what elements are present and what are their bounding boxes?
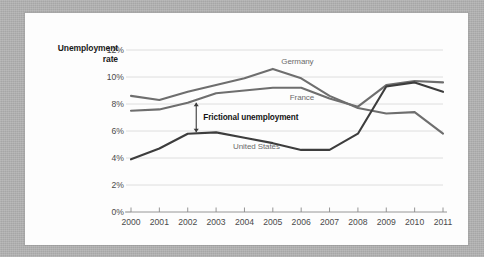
x-axis-tick-label: 2004 [235,217,254,227]
y-axis-tick-label: 10% [107,72,125,82]
y-axis-title: Unemployment rate [35,43,118,64]
x-axis-tick-label: 2010 [405,217,424,227]
line-chart: Unemployment rate 0%2%4%6%8%10%12% 20002… [25,13,468,245]
y-axis-tick-label: 2% [112,180,125,190]
x-axis [125,208,447,213]
series-label-germany: Germany [281,57,313,66]
y-axis-tick-labels: 0%2%4%6%8%10%12% [107,45,125,217]
series-line-germany [131,69,443,134]
annotation-label: Frictional unemployment [203,113,298,122]
x-axis-tick-label: 2003 [207,217,226,227]
x-axis-tick-label: 2001 [150,217,169,227]
y-axis-tick-label: 8% [112,99,125,109]
y-axis-tick-label: 0% [112,207,125,217]
x-axis-tick-label: 2002 [178,217,197,227]
x-axis-tick-label: 2000 [121,217,140,227]
annotation-arrow [194,103,199,133]
y-axis-title-line1: Unemployment [58,43,118,53]
y-axis-tick-label: 4% [112,153,125,163]
annotation-arrowhead-down [194,129,199,133]
series-label-united-states: United States [233,142,280,151]
x-axis-tick-label: 2008 [348,217,367,227]
x-axis-tick-labels: 2000200120022003200420052006200720082009… [121,217,452,227]
x-axis-tick-label: 2011 [434,217,453,227]
x-axis-tick-label: 2007 [320,217,339,227]
x-axis-tick-label: 2005 [263,217,282,227]
y-axis-tick-label: 6% [112,126,125,136]
annotation-arrowhead-up [194,103,199,107]
gridlines [126,50,443,212]
figure-card: Unemployment rate 0%2%4%6%8%10%12% 20002… [25,13,468,245]
x-axis-tick-label: 2009 [377,217,396,227]
y-axis-title-line2: rate [103,54,118,64]
series-label-france: France [290,93,314,102]
x-axis-tick-label: 2006 [292,217,311,227]
